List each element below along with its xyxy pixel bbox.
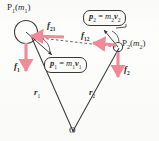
particle-2-label: P2(m2) — [122, 39, 146, 50]
force-f12-arrow — [93, 43, 116, 45]
position-vector-r1-label: r1 — [34, 88, 40, 99]
position-vector-r1-line — [31, 36, 73, 131]
force-f2-label: f2 — [124, 65, 130, 76]
physics-diagram-figure: P1(m1) P2(m2) f21 f12 f1 f2 p2 = m2v2 p1… — [0, 0, 159, 141]
momentum-p1-box: p1 = m1v1 — [44, 57, 87, 73]
force-f21-arrow — [31, 36, 64, 37]
momentum-p2-box: p2 = m2v2 — [83, 10, 126, 26]
force-f21-label: f21 — [47, 21, 56, 32]
particle-1-label: P1(m1) — [7, 3, 31, 14]
origin-label: O — [69, 126, 76, 135]
position-vector-lines — [31, 36, 119, 131]
position-vector-r2-label: r2 — [89, 88, 95, 99]
force-f12-label: f12 — [81, 31, 90, 42]
force-f1-label: f1 — [14, 62, 20, 73]
